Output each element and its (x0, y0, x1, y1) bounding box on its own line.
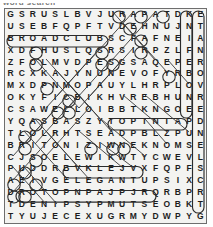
grid-cell[interactable]: E (27, 21, 38, 33)
grid-cell[interactable]: E (195, 104, 206, 116)
grid-cell[interactable]: B (139, 128, 150, 140)
grid-cell[interactable]: E (117, 68, 128, 80)
grid-cell[interactable]: R (117, 211, 128, 223)
grid-cell[interactable]: S (16, 21, 27, 33)
grid-cell[interactable]: L (61, 104, 72, 116)
grid-cell[interactable]: V (105, 21, 116, 33)
grid-cell[interactable]: N (105, 68, 116, 80)
grid-cell[interactable]: Y (139, 152, 150, 164)
grid-cell[interactable]: A (27, 104, 38, 116)
grid-cell[interactable]: E (195, 9, 206, 21)
grid-cell[interactable]: N (117, 175, 128, 187)
grid-cell[interactable]: R (105, 45, 116, 57)
grid-cell[interactable]: E (72, 211, 83, 223)
grid-cell[interactable]: M (128, 211, 139, 223)
grid-cell[interactable]: N (150, 140, 161, 152)
grid-cell[interactable]: E (94, 128, 105, 140)
grid-cell[interactable]: B (172, 199, 183, 211)
grid-cell[interactable]: B (61, 163, 72, 175)
grid-cell[interactable]: L (128, 80, 139, 92)
grid-cell[interactable]: D (38, 163, 49, 175)
grid-cell[interactable]: C (61, 92, 72, 104)
grid-cell[interactable]: R (16, 140, 27, 152)
grid-cell[interactable]: U (105, 9, 116, 21)
grid-cell[interactable]: A (172, 116, 183, 128)
grid-cell[interactable]: E (50, 211, 61, 223)
grid-cell[interactable]: M (61, 80, 72, 92)
grid-cell[interactable]: O (38, 152, 49, 164)
grid-cell[interactable]: U (50, 45, 61, 57)
grid-cell[interactable]: J (172, 21, 183, 33)
grid-cell[interactable]: B (184, 68, 195, 80)
grid-cell[interactable]: G (117, 57, 128, 69)
grid-cell[interactable]: P (172, 57, 183, 69)
grid-cell[interactable]: V (61, 57, 72, 69)
grid-cell[interactable]: T (38, 140, 49, 152)
grid-cell[interactable]: P (184, 116, 195, 128)
grid-cell[interactable]: K (184, 9, 195, 21)
grid-cell[interactable]: R (5, 68, 16, 80)
grid-cell[interactable]: P (172, 128, 183, 140)
grid-cell[interactable]: X (83, 211, 94, 223)
grid-cell[interactable]: C (195, 175, 206, 187)
grid-cell[interactable]: L (150, 128, 161, 140)
grid-cell[interactable]: U (94, 211, 105, 223)
grid-cell[interactable]: X (16, 80, 27, 92)
grid-cell[interactable]: Z (161, 45, 172, 57)
grid-cell[interactable]: V (184, 152, 195, 164)
grid-cell[interactable]: E (172, 152, 183, 164)
grid-cell[interactable]: P (5, 163, 16, 175)
grid-cell[interactable]: L (72, 33, 83, 45)
grid-cell[interactable]: R (195, 187, 206, 199)
grid-cell[interactable]: G (195, 211, 206, 223)
grid-cell[interactable]: Y (161, 68, 172, 80)
grid-cell[interactable]: Q (150, 57, 161, 69)
grid-cell[interactable]: R (172, 68, 183, 80)
grid-cell[interactable]: N (72, 187, 83, 199)
grid-cell[interactable]: B (38, 21, 49, 33)
grid-cell[interactable]: R (161, 187, 172, 199)
grid-cell[interactable]: H (105, 92, 116, 104)
grid-cell[interactable]: T (105, 116, 116, 128)
grid-cell[interactable]: C (61, 33, 72, 45)
grid-cell[interactable]: R (50, 163, 61, 175)
grid-cell[interactable]: H (161, 92, 172, 104)
grid-cell[interactable]: O (161, 199, 172, 211)
grid-cell[interactable]: K (139, 104, 150, 116)
grid-cell[interactable]: N (150, 116, 161, 128)
grid-cell[interactable]: N (195, 45, 206, 57)
grid-cell[interactable]: S (72, 116, 83, 128)
grid-cell[interactable]: G (5, 9, 16, 21)
grid-cell[interactable]: P (139, 9, 150, 21)
grid-cell[interactable]: E (184, 104, 195, 116)
grid-cell[interactable]: O (139, 68, 150, 80)
grid-cell[interactable]: Z (5, 57, 16, 69)
grid-cell[interactable]: W (105, 140, 116, 152)
grid-cell[interactable]: L (61, 9, 72, 21)
grid-cell[interactable]: E (16, 175, 27, 187)
grid-cell[interactable]: S (184, 140, 195, 152)
grid-cell[interactable]: E (83, 175, 94, 187)
grid-cell[interactable]: F (128, 33, 139, 45)
grid-cell[interactable]: D (72, 57, 83, 69)
grid-cell[interactable]: R (16, 33, 27, 45)
grid-cell[interactable]: Q (61, 21, 72, 33)
grid-cell[interactable]: O (195, 68, 206, 80)
grid-cell[interactable]: P (83, 187, 94, 199)
grid-cell[interactable]: R (139, 45, 150, 57)
grid-cell[interactable]: S (16, 9, 27, 21)
grid-cell[interactable]: I (172, 175, 183, 187)
grid-cell[interactable]: R (150, 80, 161, 92)
grid-cell[interactable]: T (5, 128, 16, 140)
grid-cell[interactable]: Y (72, 68, 83, 80)
grid-cell[interactable]: T (128, 175, 139, 187)
grid-cell[interactable]: L (94, 163, 105, 175)
grid-cell[interactable]: W (161, 152, 172, 164)
grid-cell[interactable]: O (5, 92, 16, 104)
grid-cell[interactable]: P (172, 211, 183, 223)
grid-cell[interactable]: P (83, 57, 94, 69)
grid-cell[interactable]: D (27, 163, 38, 175)
grid-cell[interactable]: N (150, 21, 161, 33)
grid-cell[interactable]: D (117, 128, 128, 140)
grid-cell[interactable]: S (94, 45, 105, 57)
